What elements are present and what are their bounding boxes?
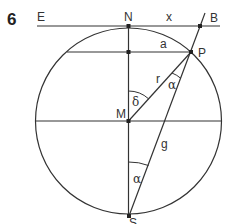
point-P bbox=[189, 50, 193, 54]
angle-alpha-bottom-arc bbox=[129, 162, 149, 166]
label-g: g bbox=[161, 137, 168, 151]
label-B: B bbox=[210, 11, 218, 25]
point-B bbox=[198, 24, 202, 28]
label-alpha-bottom: α bbox=[133, 172, 141, 186]
label-S: S bbox=[129, 216, 137, 224]
radius-r bbox=[129, 52, 192, 121]
label-M: M bbox=[116, 107, 126, 121]
point-M bbox=[127, 119, 131, 123]
geometry-diagram: E N x B a P r α δ M g α S bbox=[0, 0, 228, 224]
label-x: x bbox=[166, 10, 172, 24]
label-r: r bbox=[156, 72, 160, 86]
point-N bbox=[127, 24, 131, 28]
label-E: E bbox=[37, 10, 45, 24]
label-alpha-top: α bbox=[168, 78, 176, 92]
label-delta: δ bbox=[132, 95, 139, 109]
label-N: N bbox=[124, 10, 133, 24]
label-P: P bbox=[198, 46, 206, 60]
label-a: a bbox=[160, 37, 167, 51]
point-chord-foot bbox=[127, 50, 131, 54]
